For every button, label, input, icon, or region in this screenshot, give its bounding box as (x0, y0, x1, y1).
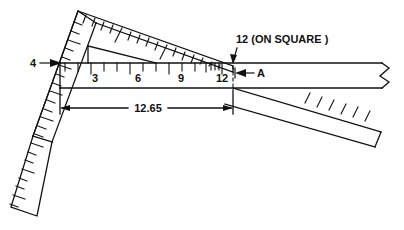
left-reference-mark-label: 4 (30, 57, 37, 69)
lower-rule-top-edge (233, 88, 381, 132)
board-scale-label-6: 6 (135, 72, 141, 84)
dimension-a-label: A (257, 67, 265, 79)
square-tongue-ticks (10, 22, 82, 207)
inner-wedge (88, 46, 156, 63)
square-tongue-inner (52, 23, 96, 142)
technical-diagram-figure: 3 6 9 12 4 12 (ON SQUARE ) A 12.65 (0, 0, 404, 230)
board-break-symbol (380, 63, 389, 88)
dim-a-arrowhead (235, 69, 246, 77)
lower-rule-bottom-edge (225, 104, 375, 147)
square-tongue-outer (33, 11, 78, 136)
board-scale-label-3: 3 (92, 72, 98, 84)
board-ticks (65, 63, 222, 74)
dimension-12-65-label: 12.65 (134, 102, 162, 114)
lower-right-rule (225, 88, 381, 147)
square-tongue-lower (11, 136, 52, 216)
lower-rule-ticks (305, 93, 370, 121)
lower-rule-right-end (375, 132, 381, 147)
diagram-canvas: 3 6 9 12 4 12 (ON SQUARE ) A 12.65 (0, 0, 404, 230)
board-scale-label-12: 12 (216, 72, 228, 84)
board-scale-label-9: 9 (178, 72, 184, 84)
on-square-callout-label: 12 (ON SQUARE ) (236, 33, 329, 45)
